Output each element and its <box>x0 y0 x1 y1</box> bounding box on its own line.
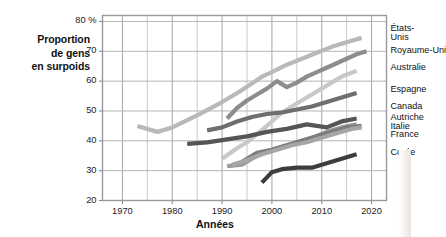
page-edge-shadow <box>399 150 411 237</box>
x-tick-label: 2010 <box>304 206 340 216</box>
y-tick-label: 20 <box>67 195 97 205</box>
series-label: Australie <box>391 63 426 73</box>
y-tick-label: 60 <box>67 75 97 85</box>
x-tick-label: 2020 <box>354 206 390 216</box>
y-tick-label: 80 % <box>53 15 97 25</box>
series-line-cor-e <box>262 154 357 182</box>
x-tick-label: 1990 <box>204 206 240 216</box>
x-tick-label: 2000 <box>254 206 290 216</box>
series-label: France <box>391 130 419 140</box>
x-tick-label: 1980 <box>154 206 190 216</box>
x-tick-label: 1970 <box>104 206 140 216</box>
y-tick-label: 50 <box>67 105 97 115</box>
series-label: Royaume-Uni <box>391 46 446 56</box>
y-tick-label: 70 <box>67 45 97 55</box>
y-tick-label: 40 <box>67 135 97 145</box>
series-label: Espagne <box>391 85 427 95</box>
series-label: Canada <box>391 102 423 112</box>
series-label: Unis <box>391 33 409 43</box>
y-tick-label: 30 <box>67 165 97 175</box>
